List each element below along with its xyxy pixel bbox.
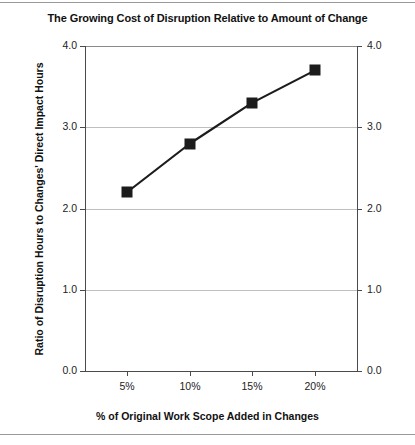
data-point-marker[interactable] bbox=[310, 65, 321, 76]
page-top-rule bbox=[0, 2, 415, 3]
y-tick-label-right-2: 2.0 bbox=[367, 202, 382, 214]
series-line bbox=[85, 46, 358, 372]
y-tick-label-right-3: 3.0 bbox=[367, 120, 382, 132]
y-axis-title: Ratio of Disruption Hours to Changes' Di… bbox=[33, 46, 51, 372]
y-tick-label-left-4: 4.0 bbox=[62, 39, 77, 51]
y-tick-label-left-1: 1.0 bbox=[62, 283, 77, 295]
chart-title: The Growing Cost of Disruption Relative … bbox=[0, 12, 415, 24]
y-tick-label-left-2: 2.0 bbox=[62, 202, 77, 214]
data-point-marker[interactable] bbox=[185, 138, 196, 149]
data-point-marker[interactable] bbox=[247, 97, 258, 108]
y-tick-label-right-0: 0.0 bbox=[367, 364, 382, 376]
x-tick-label-1: 10% bbox=[179, 380, 200, 392]
page-bottom-rule bbox=[0, 434, 415, 435]
x-axis-title: % of Original Work Scope Added in Change… bbox=[0, 410, 415, 422]
x-tick-label-3: 20% bbox=[304, 380, 325, 392]
x-tick-label-2: 15% bbox=[241, 380, 262, 392]
y-tick-label-right-1: 1.0 bbox=[367, 283, 382, 295]
y-tick-label-left-0: 0.0 bbox=[62, 364, 77, 376]
y-tick-label-left-3: 3.0 bbox=[62, 120, 77, 132]
x-tick-label-0: 5% bbox=[119, 380, 134, 392]
data-point-marker[interactable] bbox=[122, 187, 133, 198]
y-tick-label-right-4: 4.0 bbox=[367, 39, 382, 51]
plot-area: 4.0 4.0 3.0 3.0 2.0 2.0 1.0 1.0 0.0 0.0 … bbox=[85, 46, 358, 372]
